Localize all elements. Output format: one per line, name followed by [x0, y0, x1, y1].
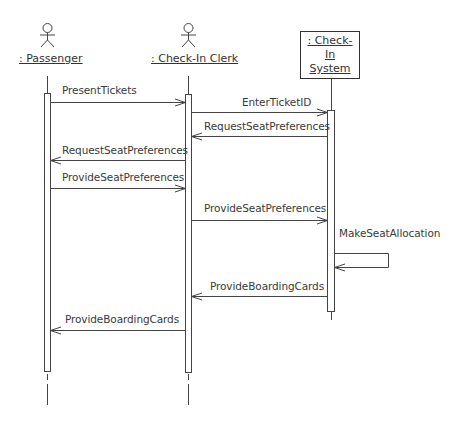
participant-system-box: : Check-In System	[300, 31, 360, 79]
clerk-activation-bar	[186, 95, 192, 373]
message-label-request-seat-prefs-1: RequestSeatPreferences	[204, 120, 330, 132]
passenger-activation-bar	[45, 94, 51, 372]
message-label-enter-ticket-id: EnterTicketID	[242, 96, 311, 108]
message-arrow-request-seat-prefs-2	[51, 157, 186, 164]
message-label-make-seat-allocation: MakeSeatAllocation	[339, 227, 440, 239]
message-arrow-provide-seat-prefs-2	[192, 217, 328, 224]
participant-passenger-label: : Passenger	[19, 52, 83, 65]
participant-system-label-line1: : Check-In	[304, 34, 356, 62]
message-arrow-provide-seat-prefs-1	[51, 185, 186, 192]
self-message-arrow-make-seat-allocation	[335, 254, 389, 272]
message-label-request-seat-prefs-2: RequestSeatPreferences	[62, 144, 188, 156]
message-arrow-present-tickets	[51, 99, 186, 106]
clerk-actor-icon	[181, 24, 196, 48]
message-label-provide-boarding-cards-1: ProvideBoardingCards	[210, 280, 324, 292]
message-arrow-provide-boarding-cards-1	[192, 293, 328, 300]
message-arrow-request-seat-prefs-1	[192, 133, 328, 140]
message-label-provide-seat-prefs-2: ProvideSeatPreferences	[204, 202, 326, 214]
message-arrow-provide-boarding-cards-2	[51, 327, 186, 334]
message-label-provide-boarding-cards-2: ProvideBoardingCards	[65, 313, 179, 325]
system-activation-bar	[328, 111, 335, 312]
participant-clerk-label: : Check-In Clerk	[151, 52, 238, 65]
passenger-actor-icon	[40, 24, 55, 48]
participant-system-label-line2: System	[304, 62, 356, 76]
message-arrow-enter-ticket-id	[192, 109, 328, 116]
message-label-provide-seat-prefs-1: ProvideSeatPreferences	[62, 171, 184, 183]
message-label-present-tickets: PresentTickets	[62, 84, 137, 96]
